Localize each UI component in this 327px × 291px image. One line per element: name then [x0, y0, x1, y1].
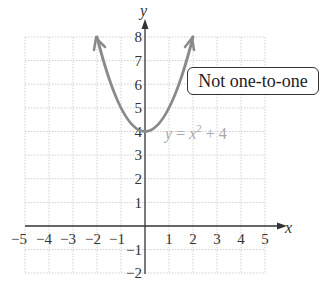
- equation-label: y = x2 + 4: [163, 122, 227, 143]
- y-axis-arrow-icon: [142, 19, 149, 29]
- svg-text:3: 3: [135, 147, 143, 163]
- not-one-to-one-badge: Not one-to-one: [187, 67, 319, 95]
- svg-text:6: 6: [135, 77, 143, 93]
- svg-text:5: 5: [261, 231, 269, 247]
- svg-text:8: 8: [135, 29, 143, 45]
- svg-text:−2: −2: [85, 231, 101, 247]
- svg-text:2: 2: [135, 171, 143, 187]
- svg-text:4: 4: [237, 231, 245, 247]
- svg-text:−2: −2: [126, 265, 142, 281]
- y-axis-label: y: [138, 2, 148, 20]
- svg-text:−1: −1: [109, 231, 125, 247]
- svg-text:−5: −5: [11, 231, 27, 247]
- x-axis-label: x: [284, 219, 292, 236]
- svg-text:−1: −1: [126, 242, 142, 258]
- svg-text:1: 1: [135, 195, 143, 211]
- svg-text:2: 2: [189, 231, 197, 247]
- svg-text:7: 7: [135, 53, 143, 69]
- svg-text:5: 5: [135, 100, 143, 116]
- svg-text:3: 3: [213, 231, 221, 247]
- svg-text:−4: −4: [36, 231, 52, 247]
- chart-canvas: x y −5 −4 −3 −2 −1 1 2 3 4 5 −2 −1 1 2 3…: [0, 0, 327, 291]
- svg-text:1: 1: [165, 231, 173, 247]
- svg-text:−3: −3: [60, 231, 76, 247]
- y-tick-labels: −2 −1 1 2 3 4 5 6 7 8: [126, 29, 142, 281]
